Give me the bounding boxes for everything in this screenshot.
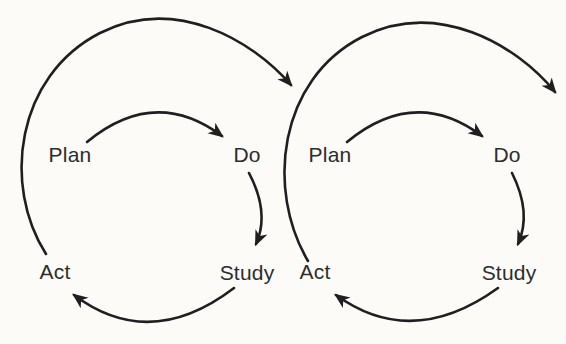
cycle2-do-label: Do [493, 143, 520, 166]
cycle1-do-to-study-arrow [249, 173, 262, 244]
cycle1-study-label: Study [220, 261, 275, 284]
cycle1-plan-to-do-arrow [87, 112, 222, 142]
pdsa-diagram-canvas: Plan Do Study Act Plan Do Study Act [0, 0, 566, 344]
cycle2-plan-to-do-arrow [347, 112, 482, 142]
cycle2-study-to-act-arrow [336, 288, 498, 321]
cycle-1: Plan Do Study Act [22, 19, 291, 322]
cycle1-act-to-next-cycle-outer-arc-arrow [22, 19, 291, 254]
cycle2-act-label: Act [300, 260, 331, 283]
pdsa-diagram: Plan Do Study Act Plan Do Study Act [0, 0, 566, 344]
cycle2-plan-label: Plan [309, 143, 352, 166]
cycle-2: Plan Do Study Act [284, 23, 555, 321]
cycle2-study-label: Study [482, 261, 537, 284]
cycle1-study-to-act-arrow [74, 288, 234, 322]
cycle2-do-to-study-arrow [512, 173, 524, 244]
cycle2-act-to-next-cycle-outer-arc-arrow [284, 23, 555, 261]
cycle1-do-label: Do [233, 143, 260, 166]
cycle1-plan-label: Plan [49, 143, 92, 166]
cycle1-act-label: Act [40, 260, 71, 283]
